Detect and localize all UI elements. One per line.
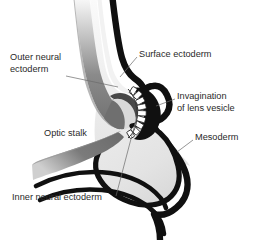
label-optic-stalk: Optic stalk <box>44 128 87 138</box>
label-surface-ectoderm: Surface ectoderm <box>139 49 212 59</box>
embryology-figure: Outer neural ectoderm Surface ectoderm I… <box>0 0 254 240</box>
label-inner-neural-ectoderm: Inner neural ectoderm <box>12 192 102 202</box>
lens-vesicle-diagram: Outer neural ectoderm Surface ectoderm I… <box>0 0 254 240</box>
label-mesoderm: Mesoderm <box>195 132 239 142</box>
label-invagination-of-lens-vesicle: Invagination of lens vesicle <box>177 91 235 113</box>
